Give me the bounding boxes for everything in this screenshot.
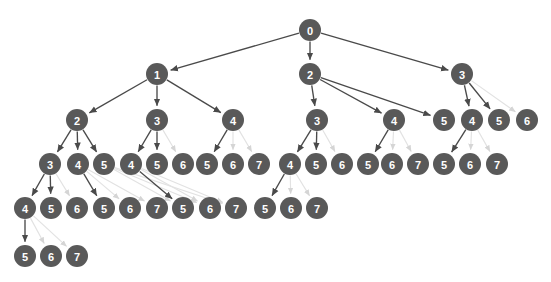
tree-node[interactable]: 7 xyxy=(407,153,429,175)
tree-node[interactable]: 5 xyxy=(172,197,194,219)
tree-node-circle[interactable] xyxy=(196,153,218,175)
tree-edge xyxy=(400,130,412,151)
tree-node-circle[interactable] xyxy=(407,153,429,175)
tree-node-circle[interactable] xyxy=(488,109,510,131)
tree-node-circle[interactable] xyxy=(433,109,455,131)
tree-node[interactable]: 5 xyxy=(433,153,455,175)
tree-node[interactable]: 6 xyxy=(222,153,244,175)
tree-node[interactable]: 6 xyxy=(459,153,481,175)
tree-node-circle[interactable] xyxy=(280,197,302,219)
tree-node-circle[interactable] xyxy=(120,153,142,175)
tree-node-circle[interactable] xyxy=(516,109,538,131)
tree-node[interactable]: 3 xyxy=(306,109,328,131)
tree-node[interactable]: 4 xyxy=(67,153,89,175)
tree-node[interactable]: 6 xyxy=(119,197,141,219)
tree-node-circle[interactable] xyxy=(119,197,141,219)
tree-node[interactable]: 4 xyxy=(222,109,244,131)
tree-node-circle[interactable] xyxy=(67,153,89,175)
tree-node[interactable]: 4 xyxy=(279,153,301,175)
tree-node[interactable]: 7 xyxy=(248,153,270,175)
tree-node-circle[interactable] xyxy=(279,153,301,175)
tree-node-circle[interactable] xyxy=(146,63,168,85)
tree-node-circle[interactable] xyxy=(40,197,62,219)
tree-node[interactable]: 6 xyxy=(199,197,221,219)
tree-node[interactable]: 4 xyxy=(461,109,483,131)
tree-node[interactable]: 4 xyxy=(383,109,405,131)
tree-node[interactable]: 7 xyxy=(146,197,168,219)
tree-node-circle[interactable] xyxy=(299,19,321,41)
tree-node[interactable]: 2 xyxy=(299,63,321,85)
tree-edge xyxy=(272,174,284,196)
tree-edge xyxy=(171,33,299,70)
tree-node-circle[interactable] xyxy=(381,153,403,175)
tree-node-circle[interactable] xyxy=(299,63,321,85)
tree-node[interactable]: 6 xyxy=(331,153,353,175)
tree-node-circle[interactable] xyxy=(93,197,115,219)
tree-node-circle[interactable] xyxy=(486,153,508,175)
tree-node-circle[interactable] xyxy=(383,109,405,131)
tree-node-circle[interactable] xyxy=(39,153,61,175)
tree-node-circle[interactable] xyxy=(40,245,62,267)
tree-node[interactable]: 5 xyxy=(93,197,115,219)
tree-node-circle[interactable] xyxy=(66,109,88,131)
tree-node[interactable]: 5 xyxy=(305,153,327,175)
tree-node[interactable]: 5 xyxy=(146,153,168,175)
tree-node-circle[interactable] xyxy=(14,245,36,267)
tree-node-circle[interactable] xyxy=(222,153,244,175)
tree-node[interactable]: 7 xyxy=(66,245,88,267)
tree-edge xyxy=(452,130,466,152)
tree-node[interactable]: 7 xyxy=(306,197,328,219)
tree-node-circle[interactable] xyxy=(459,153,481,175)
tree-node-circle[interactable] xyxy=(306,109,328,131)
tree-node[interactable]: 6 xyxy=(516,109,538,131)
tree-node[interactable]: 5 xyxy=(488,109,510,131)
tree-node-circle[interactable] xyxy=(172,197,194,219)
tree-node[interactable]: 5 xyxy=(196,153,218,175)
tree-node-circle[interactable] xyxy=(254,197,276,219)
tree-node-circle[interactable] xyxy=(146,153,168,175)
tree-node[interactable]: 0 xyxy=(299,19,321,41)
tree-node-circle[interactable] xyxy=(225,197,247,219)
tree-node[interactable]: 5 xyxy=(357,153,379,175)
tree-node-circle[interactable] xyxy=(222,109,244,131)
tree-edge xyxy=(321,33,448,70)
tree-node[interactable]: 3 xyxy=(39,153,61,175)
tree-node-circle[interactable] xyxy=(357,153,379,175)
tree-node-circle[interactable] xyxy=(172,153,194,175)
tree-node-circle[interactable] xyxy=(199,197,221,219)
tree-edge xyxy=(30,218,44,243)
tree-node-circle[interactable] xyxy=(331,153,353,175)
tree-node[interactable]: 6 xyxy=(381,153,403,175)
tree-node[interactable]: 6 xyxy=(40,245,62,267)
tree-node-circle[interactable] xyxy=(433,153,455,175)
tree-node[interactable]: 3 xyxy=(146,109,168,131)
tree-node[interactable]: 6 xyxy=(66,197,88,219)
tree-node-circle[interactable] xyxy=(66,245,88,267)
tree-node[interactable]: 6 xyxy=(280,197,302,219)
tree-node-circle[interactable] xyxy=(451,63,473,85)
tree-node-circle[interactable] xyxy=(305,153,327,175)
tree-node[interactable]: 2 xyxy=(66,109,88,131)
tree-node[interactable]: 5 xyxy=(254,197,276,219)
tree-node[interactable]: 5 xyxy=(93,153,115,175)
tree-node-circle[interactable] xyxy=(146,109,168,131)
tree-edge xyxy=(84,174,97,196)
tree-node[interactable]: 7 xyxy=(486,153,508,175)
tree-node-circle[interactable] xyxy=(461,109,483,131)
tree-node[interactable]: 5 xyxy=(40,197,62,219)
tree-node[interactable]: 5 xyxy=(433,109,455,131)
tree-edge xyxy=(87,171,119,198)
tree-node-circle[interactable] xyxy=(66,197,88,219)
tree-node-circle[interactable] xyxy=(93,153,115,175)
tree-node[interactable]: 5 xyxy=(14,245,36,267)
tree-node-circle[interactable] xyxy=(146,197,168,219)
tree-node-circle[interactable] xyxy=(14,197,36,219)
tree-node[interactable]: 3 xyxy=(451,63,473,85)
tree-node-circle[interactable] xyxy=(306,197,328,219)
tree-node-circle[interactable] xyxy=(248,153,270,175)
tree-node[interactable]: 4 xyxy=(120,153,142,175)
tree-node[interactable]: 4 xyxy=(14,197,36,219)
tree-node[interactable]: 1 xyxy=(146,63,168,85)
tree-node[interactable]: 6 xyxy=(172,153,194,175)
tree-node[interactable]: 7 xyxy=(225,197,247,219)
